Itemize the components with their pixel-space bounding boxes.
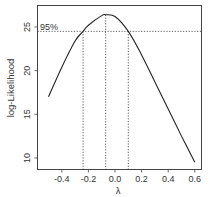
x-tick-label: 0.4 [162, 174, 175, 184]
y-tick-label: 10 [22, 153, 32, 163]
plot-frame [38, 6, 202, 170]
ci-lines [38, 15, 202, 170]
y-tick-label: 25 [22, 22, 32, 32]
ci-95-label: 95% [40, 22, 58, 32]
x-tick-label: 0.2 [135, 174, 148, 184]
y-tick-label: 15 [22, 109, 32, 119]
box-cox-loglik-chart: -0.4-0.20.00.20.40.6 10152025 95% λ log-… [0, 0, 211, 197]
loglik-curve [49, 15, 195, 163]
y-tick-label: 20 [22, 66, 32, 76]
x-tick-label: -0.4 [54, 174, 70, 184]
x-tick-label: -0.2 [81, 174, 97, 184]
x-axis: -0.4-0.20.00.20.40.6 [54, 170, 201, 184]
x-tick-label: 0.0 [109, 174, 122, 184]
x-axis-title: λ [116, 185, 121, 196]
loglik-curve-path [49, 15, 195, 163]
x-tick-label: 0.6 [189, 174, 202, 184]
y-axis: 10152025 [22, 22, 38, 163]
y-axis-title: log-Likelihood [5, 59, 16, 118]
